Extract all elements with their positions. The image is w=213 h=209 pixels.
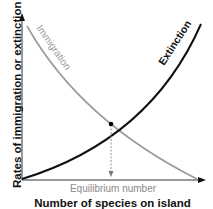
equilibrium-label: Equilibrium number (0, 182, 213, 195)
extinction-label: Extinction (156, 18, 194, 67)
equilibrium-marker (109, 122, 114, 177)
equilibrium-point (109, 122, 114, 127)
equilibrium-arrow-icon (109, 171, 114, 177)
y-axis-label: Rates of immigration or extinction (10, 18, 24, 188)
x-axis-label: Number of species on island (0, 197, 213, 209)
island-biogeography-chart: Immigration Extinction (0, 0, 213, 209)
